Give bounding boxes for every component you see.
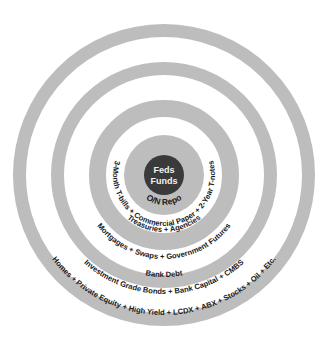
core-label-line1: Feds [153, 165, 174, 175]
core-label-line2: Funds [151, 176, 178, 186]
concentric-markets-diagram: Feds Funds O/N Repo 3-Month T-bills + Co… [0, 0, 327, 337]
core-circle [144, 155, 184, 195]
